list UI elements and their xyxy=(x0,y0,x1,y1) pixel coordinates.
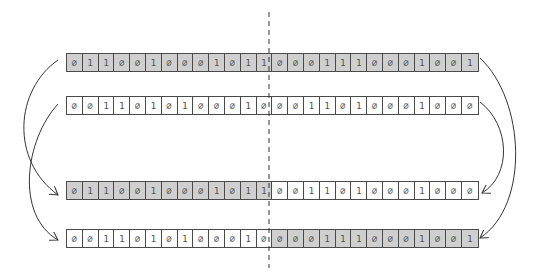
arrow-parent-b-to-child-1 xyxy=(480,102,504,193)
arrow-parent-b-to-child-2 xyxy=(29,104,58,240)
arrow-parent-a-to-child-1 xyxy=(24,60,58,195)
arrow-parent-a-to-child-2 xyxy=(480,58,516,238)
arrows-and-divider xyxy=(0,0,534,275)
